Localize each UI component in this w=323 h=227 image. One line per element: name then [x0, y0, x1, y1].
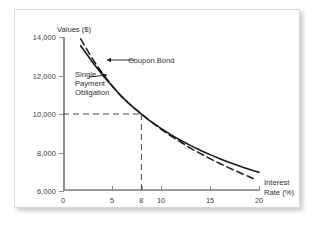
annotation-leaders — [89, 58, 135, 78]
x-axis-title-line1: Interest — [264, 178, 294, 188]
x-tick-label: 15 — [206, 196, 214, 205]
x-tick-label: 0 — [61, 196, 65, 205]
x-tick-label: 8 — [139, 196, 143, 205]
x-tick-mark — [259, 186, 260, 191]
x-tick-label: 5 — [110, 196, 114, 205]
coupon-bond-leader-arrowhead — [107, 58, 111, 62]
y-tick-label: 8,000 — [37, 148, 56, 157]
y-tick-mark — [59, 37, 64, 38]
y-tick-label: 6,000 — [37, 187, 56, 196]
series-coupon-bond — [81, 46, 259, 173]
x-tick-mark — [141, 186, 142, 191]
curve-overlay — [63, 37, 259, 191]
x-tick-mark — [210, 186, 211, 191]
y-tick-label: 10,000 — [33, 110, 56, 119]
x-axis-title-line2: Rate (%) — [264, 188, 294, 198]
y-tick-mark — [59, 191, 64, 192]
y-tick-label: 14,000 — [33, 33, 56, 42]
chart-card: Values ($) Interest Rate (%) Coupon Bond… — [14, 9, 300, 208]
data-curves — [81, 39, 259, 179]
series-single-payment-obligation — [81, 39, 253, 179]
y-tick-mark — [59, 114, 64, 115]
y-tick-mark — [59, 76, 64, 77]
plot-area: 6,0008,00010,00012,00014,000 058101520 — [63, 37, 259, 191]
y-tick-mark — [59, 153, 64, 154]
y-axis-title: Values ($) — [57, 25, 91, 34]
single-payment-leader-arrowhead — [103, 73, 107, 77]
x-tick-mark — [112, 186, 113, 191]
guide-lines — [63, 114, 141, 191]
x-tick-mark — [161, 186, 162, 191]
y-tick-label: 12,000 — [33, 71, 56, 80]
x-tick-mark — [63, 186, 64, 191]
x-tick-label: 20 — [255, 196, 263, 205]
x-axis-title: Interest Rate (%) — [264, 178, 294, 197]
x-tick-label: 10 — [157, 196, 165, 205]
single-payment-leader — [89, 75, 107, 77]
figure-root: Values ($) Interest Rate (%) Coupon Bond… — [0, 0, 323, 227]
